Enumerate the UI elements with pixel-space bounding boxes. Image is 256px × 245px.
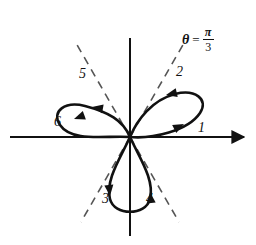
segment-label-4: 4 <box>146 192 153 206</box>
fraction-denominator: 3 <box>203 40 213 53</box>
segment-label-2: 2 <box>176 65 183 79</box>
fraction-numerator: π <box>203 26 214 39</box>
theta-symbol: θ <box>182 33 189 47</box>
polar-rose-figure: θ = π 3 1 2 5 6 3 4 <box>0 0 256 245</box>
direction-arrow-6-icon <box>72 111 85 123</box>
polar-plot-canvas <box>0 0 256 245</box>
segment-label-3: 3 <box>102 192 109 206</box>
rose-petal-right <box>130 93 203 138</box>
equals-symbol: = <box>192 33 199 46</box>
rose-petal-left <box>57 105 130 137</box>
theta-equals-pi-over-three-label: θ = π 3 <box>182 26 214 53</box>
pi-over-three-fraction: π 3 <box>203 26 214 53</box>
segment-label-5: 5 <box>79 67 86 81</box>
segment-label-6: 6 <box>54 115 61 129</box>
segment-label-1: 1 <box>198 121 205 135</box>
